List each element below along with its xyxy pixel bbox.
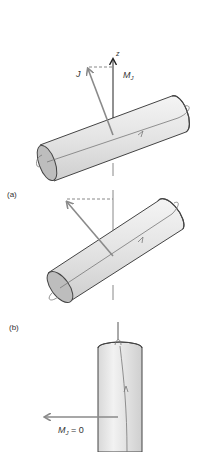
panel-c: MJ = 0 xyxy=(45,322,142,452)
angular-momentum-diagram: z J MJ (a) xyxy=(0,0,202,452)
j-vector-label: J xyxy=(75,69,81,79)
mj-label: MJ xyxy=(123,70,135,81)
panel-label-a: (a) xyxy=(7,190,17,199)
mj-zero-label: MJ = 0 xyxy=(58,425,84,436)
panel-a: z J MJ (a) xyxy=(7,50,189,199)
panel-b: (b) xyxy=(9,190,184,332)
cylinder-a xyxy=(33,96,189,184)
z-axis-label: z xyxy=(115,50,120,57)
cylinder-c xyxy=(98,342,142,452)
panel-label-b: (b) xyxy=(9,323,19,332)
